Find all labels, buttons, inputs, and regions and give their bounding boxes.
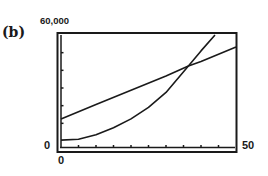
- axis-ticks: [61, 53, 219, 148]
- plot-frame: [58, 33, 237, 152]
- graph-window: [0, 0, 268, 176]
